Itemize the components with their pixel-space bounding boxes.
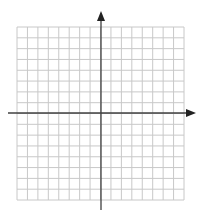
x-axis-arrow-icon [186, 109, 196, 117]
coordinate-plane [0, 0, 201, 220]
axes [8, 11, 196, 210]
coordinate-grid-svg [0, 0, 201, 220]
y-axis-arrow-icon [97, 11, 105, 21]
